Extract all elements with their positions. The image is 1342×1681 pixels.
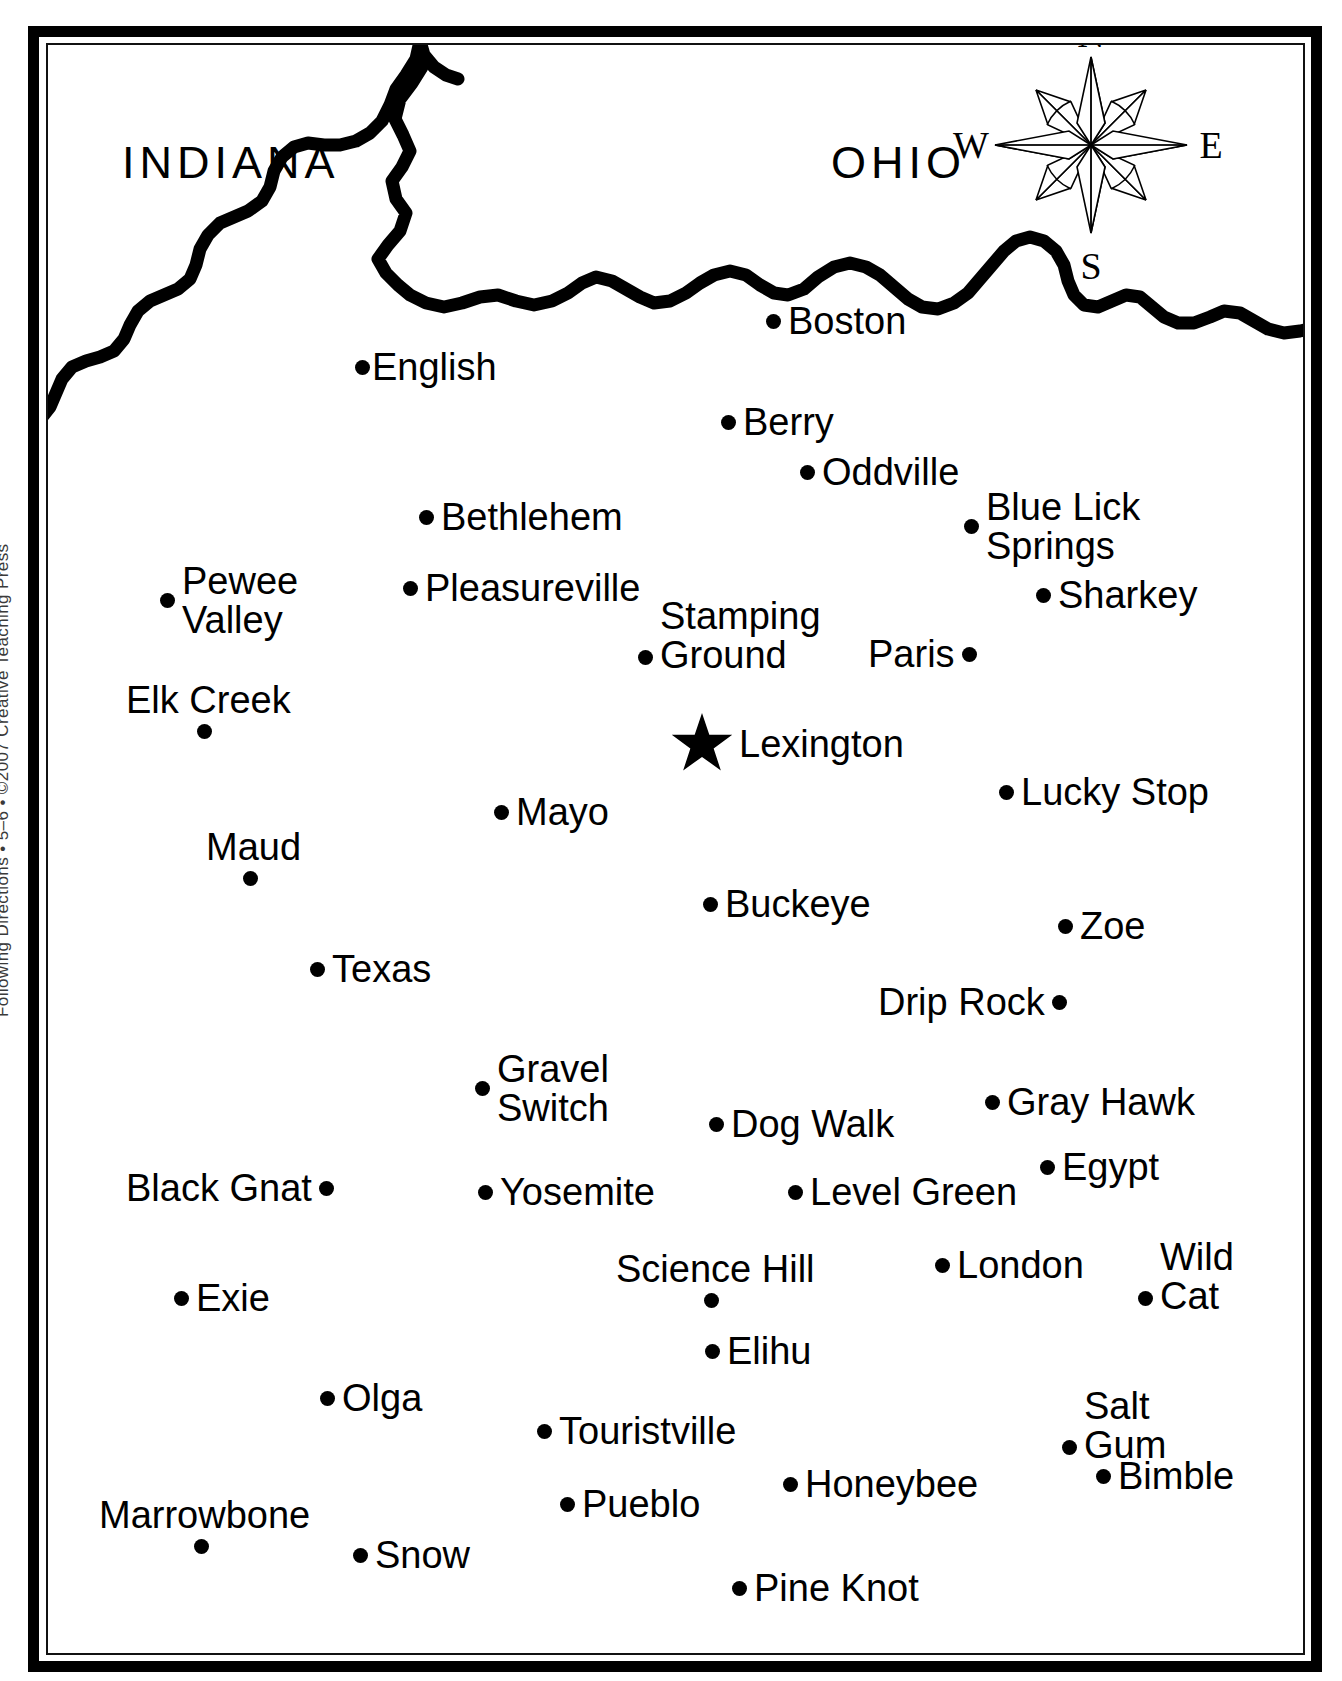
city-label: Sharkey xyxy=(1058,576,1197,615)
city-label: Oddville xyxy=(822,453,959,492)
city-marker-paris: Paris xyxy=(868,635,977,674)
capital-label: Lexington xyxy=(739,723,904,766)
city-dot-icon xyxy=(705,1344,720,1359)
city-dot-icon xyxy=(160,593,175,608)
capital-marker-lexington: Lexington xyxy=(671,713,904,775)
city-dot-icon xyxy=(709,1117,724,1132)
city-dot-icon xyxy=(197,724,212,739)
city-label: Buckeye xyxy=(725,885,871,924)
city-label: Zoe xyxy=(1080,907,1145,946)
city-marker-dog-walk: Dog Walk xyxy=(709,1105,894,1144)
state-label-indiana: INDIANA xyxy=(122,137,340,189)
city-label: Texas xyxy=(332,950,431,989)
compass-label-east: E xyxy=(1199,124,1222,166)
city-marker-lucky-stop: Lucky Stop xyxy=(999,773,1209,812)
city-label: Wild Cat xyxy=(1160,1238,1234,1316)
city-marker-science-hill: Science Hill xyxy=(616,1250,815,1308)
city-dot-icon xyxy=(1138,1291,1153,1306)
city-marker-buckeye: Buckeye xyxy=(703,885,871,924)
city-dot-icon xyxy=(243,871,258,886)
city-marker-egypt: Egypt xyxy=(1040,1148,1159,1187)
city-marker-sharkey: Sharkey xyxy=(1036,576,1197,615)
city-marker-mayo: Mayo xyxy=(494,793,609,832)
city-dot-icon xyxy=(353,1548,368,1563)
city-marker-pueblo: Pueblo xyxy=(560,1485,700,1524)
city-marker-salt-gum: Salt Gum xyxy=(1062,1387,1166,1465)
city-dot-icon xyxy=(962,647,977,662)
capital-star-icon xyxy=(671,713,733,775)
city-marker-oddville: Oddville xyxy=(800,453,959,492)
city-marker-elk-creek: Elk Creek xyxy=(126,681,291,739)
city-marker-bimble: Bimble xyxy=(1096,1457,1234,1496)
city-marker-pewee-valley: Pewee Valley xyxy=(160,562,298,640)
city-dot-icon xyxy=(560,1497,575,1512)
city-dot-icon xyxy=(964,519,979,534)
city-label: Honeybee xyxy=(805,1465,978,1504)
city-marker-stamping-ground: Stamping Ground xyxy=(638,597,821,675)
state-label-ohio: OHIO xyxy=(831,137,966,189)
city-label: Pewee Valley xyxy=(182,562,298,640)
city-label: Elk Creek xyxy=(126,681,291,720)
city-label: Mayo xyxy=(516,793,609,832)
city-label: Exie xyxy=(196,1279,270,1318)
city-label: Drip Rock xyxy=(878,983,1045,1022)
city-dot-icon xyxy=(1036,588,1051,603)
city-marker-touristville: Touristville xyxy=(537,1412,736,1451)
city-label: Bimble xyxy=(1118,1457,1234,1496)
city-marker-berry: Berry xyxy=(721,403,834,442)
city-label: Bethlehem xyxy=(441,498,623,537)
city-marker-marrowbone: Marrowbone xyxy=(99,1496,310,1554)
city-label: Paris xyxy=(868,635,955,674)
city-dot-icon xyxy=(783,1477,798,1492)
city-marker-english: English xyxy=(355,348,497,387)
city-marker-boston: Boston xyxy=(766,302,906,341)
map-page: Following Directions • 5–6 • ©2007 Creat… xyxy=(0,0,1342,1681)
city-label: Egypt xyxy=(1062,1148,1159,1187)
city-label: Blue Lick Springs xyxy=(986,488,1140,566)
city-label: Boston xyxy=(788,302,906,341)
city-dot-icon xyxy=(1096,1469,1111,1484)
city-label: Science Hill xyxy=(616,1250,815,1289)
city-marker-honeybee: Honeybee xyxy=(783,1465,978,1504)
city-label: Yosemite xyxy=(500,1173,655,1212)
city-marker-gray-hawk: Gray Hawk xyxy=(985,1083,1195,1122)
city-marker-gravel-switch: Gravel Switch xyxy=(475,1050,609,1128)
city-dot-icon xyxy=(935,1258,950,1273)
city-marker-drip-rock: Drip Rock xyxy=(878,983,1067,1022)
city-label: Stamping Ground xyxy=(660,597,821,675)
city-marker-pleasureville: Pleasureville xyxy=(403,569,640,608)
city-marker-pine-knot: Pine Knot xyxy=(732,1569,919,1608)
city-dot-icon xyxy=(355,360,370,375)
city-label: Pine Knot xyxy=(754,1569,919,1608)
city-dot-icon xyxy=(475,1081,490,1096)
city-dot-icon xyxy=(638,650,653,665)
city-label: Gravel Switch xyxy=(497,1050,609,1128)
city-dot-icon xyxy=(319,1181,334,1196)
city-dot-icon xyxy=(766,314,781,329)
city-dot-icon xyxy=(732,1581,747,1596)
city-label: Snow xyxy=(375,1536,470,1575)
city-dot-icon xyxy=(419,510,434,525)
city-dot-icon xyxy=(704,1293,719,1308)
city-marker-blue-lick-springs: Blue Lick Springs xyxy=(964,488,1140,566)
city-label: Salt Gum xyxy=(1084,1387,1166,1465)
city-dot-icon xyxy=(403,581,418,596)
city-label: Lucky Stop xyxy=(1021,773,1209,812)
city-dot-icon xyxy=(537,1424,552,1439)
city-label: Level Green xyxy=(810,1173,1017,1212)
compass-label-north: N xyxy=(1077,45,1104,55)
city-dot-icon xyxy=(320,1391,335,1406)
city-label: Pueblo xyxy=(582,1485,700,1524)
city-dot-icon xyxy=(1062,1440,1077,1455)
city-label: Pleasureville xyxy=(425,569,640,608)
city-label: Berry xyxy=(743,403,834,442)
city-marker-elihu: Elihu xyxy=(705,1332,812,1371)
city-dot-icon xyxy=(800,465,815,480)
city-dot-icon xyxy=(999,785,1014,800)
city-dot-icon xyxy=(985,1095,1000,1110)
city-label: Maud xyxy=(206,828,301,867)
city-marker-olga: Olga xyxy=(320,1379,422,1418)
city-marker-zoe: Zoe xyxy=(1058,907,1145,946)
compass-label-south: S xyxy=(1080,245,1101,287)
city-dot-icon xyxy=(1052,995,1067,1010)
